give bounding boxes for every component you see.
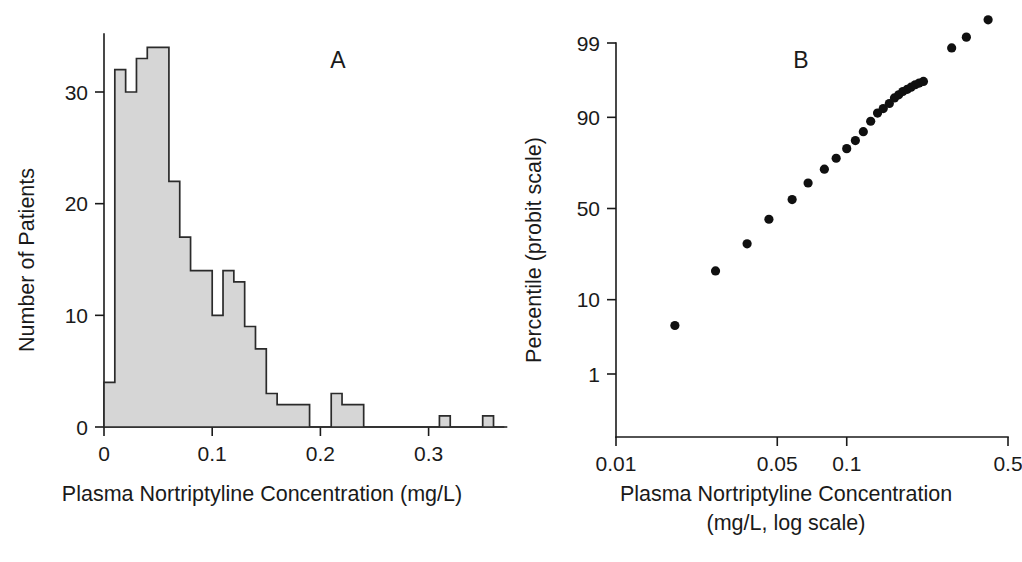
panel-b-data-point xyxy=(820,165,829,174)
panel-a-x-tick-label: 0.1 xyxy=(198,442,227,465)
panel-a-y-tick-label: 0 xyxy=(76,416,88,439)
panel-b-y-tick-label: 90 xyxy=(577,106,600,129)
panel-b-tick-labels: 1105090990.010.050.10.5 xyxy=(577,32,1022,476)
panel-b-y-tick-label: 10 xyxy=(577,288,600,311)
panel-b-x-tick-label: 0.1 xyxy=(832,452,861,475)
panel-a-x-tick-label: 0 xyxy=(98,442,110,465)
panel-b-data-point xyxy=(842,144,851,153)
panel-b-data-point xyxy=(670,321,679,330)
panel-b-axes xyxy=(607,43,1008,446)
panel-b-data-point xyxy=(859,127,868,136)
panel-a-x-axis-title: Plasma Nortriptyline Concentration (mg/L… xyxy=(62,482,462,506)
panel-b-data-point xyxy=(866,117,875,126)
panel-b-probit-plot: 1105090990.010.050.10.5 B Plasma Nortrip… xyxy=(511,0,1022,562)
panel-b-y-tick-label: 1 xyxy=(588,363,600,386)
panel-b-y-tick-label: 50 xyxy=(577,197,600,220)
panel-a-plot: 010203000.10.20.3 A Plasma Nortriptyline… xyxy=(0,0,511,562)
panel-b-data-point xyxy=(832,154,841,163)
panel-b-data-points xyxy=(670,15,992,330)
panel-a-x-tick-label: 0.2 xyxy=(306,442,335,465)
panel-b-data-point xyxy=(711,266,720,275)
panel-b-y-axis-title: Percentile (probit scale) xyxy=(522,137,546,363)
panel-b-y-tick-label: 99 xyxy=(577,32,600,55)
panel-b-letter: B xyxy=(793,47,808,73)
panel-a-letter: A xyxy=(330,47,346,73)
panel-a-y-tick-label: 30 xyxy=(65,81,88,104)
panel-b-x-tick-label: 0.5 xyxy=(993,452,1022,475)
panel-a-y-axis-title: Number of Patients xyxy=(15,168,39,352)
panel-b-x-axis-title-line1: Plasma Nortriptyline Concentration xyxy=(620,482,952,506)
panel-b-data-point xyxy=(788,195,797,204)
panel-a-histogram: 010203000.10.20.3 A Plasma Nortriptyline… xyxy=(0,0,511,562)
panel-b-data-point xyxy=(743,239,752,248)
panel-b-plot: 1105090990.010.050.10.5 B Plasma Nortrip… xyxy=(511,0,1022,562)
panel-a-histogram-bars xyxy=(104,47,504,427)
panel-b-x-tick-label: 0.01 xyxy=(596,452,637,475)
panel-a-y-tick-label: 20 xyxy=(65,192,88,215)
panel-b-data-point xyxy=(962,33,971,42)
panel-a-y-tick-label: 10 xyxy=(65,304,88,327)
panel-a-histogram-outline xyxy=(104,47,504,427)
panel-b-x-axis-title-line2: (mg/L, log scale) xyxy=(707,511,866,535)
panel-b-x-tick-label: 0.05 xyxy=(757,452,798,475)
panel-a-x-tick-label: 0.3 xyxy=(414,442,443,465)
panel-b-data-point xyxy=(764,215,773,224)
panel-b-data-point xyxy=(851,136,860,145)
panel-b-data-point xyxy=(919,77,928,86)
panel-b-data-point xyxy=(803,178,812,187)
panel-b-data-point xyxy=(984,15,993,24)
figure-root: 010203000.10.20.3 A Plasma Nortriptyline… xyxy=(0,0,1022,562)
panel-b-data-point xyxy=(947,43,956,52)
